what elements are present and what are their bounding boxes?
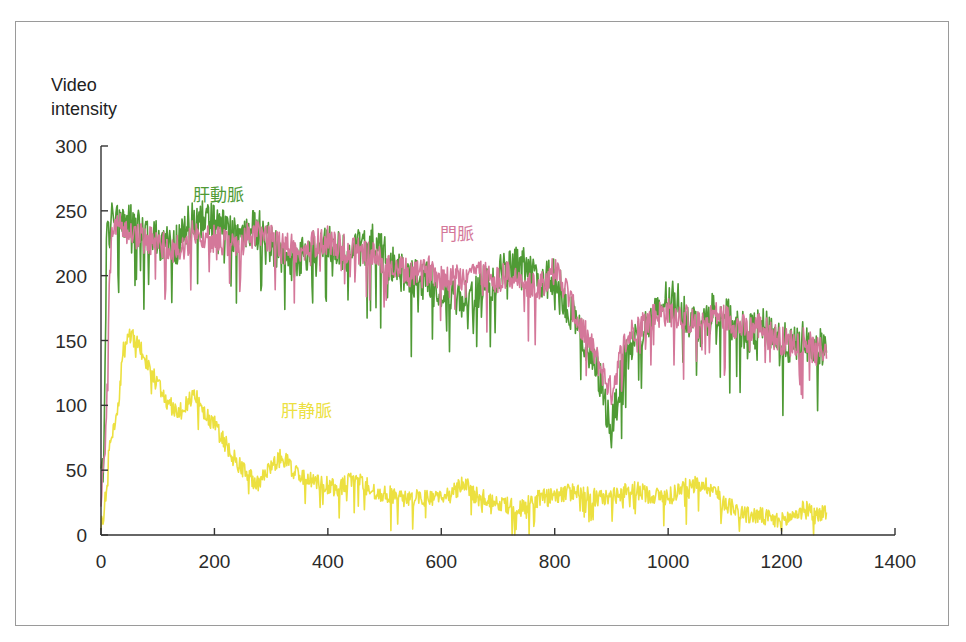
y-tick-label: 250 [55, 201, 87, 222]
x-tick-label: 800 [539, 551, 571, 572]
series-label-hepatic-vein: 肝静脈 [281, 397, 332, 422]
x-tick-label: 1200 [760, 551, 802, 572]
x-tick-label: 1000 [647, 551, 689, 572]
series-label-portal-vein: 門脈 [440, 220, 474, 245]
x-tick-label: 600 [425, 551, 457, 572]
y-tick-label: 0 [76, 525, 87, 546]
y-tick-label: 50 [66, 460, 87, 481]
y-tick-label: 150 [55, 331, 87, 352]
y-tick-label: 100 [55, 395, 87, 416]
x-tick-label: 400 [312, 551, 344, 572]
y-tick-label: 200 [55, 266, 87, 287]
axes: 0501001502002503000200400600800100012001… [55, 136, 916, 572]
x-tick-label: 0 [96, 551, 107, 572]
series-layer [101, 201, 827, 535]
plot-area: 0501001502002503000200400600800100012001… [0, 0, 966, 642]
series-line [101, 214, 827, 507]
series-line [101, 329, 827, 535]
x-tick-label: 1400 [874, 551, 916, 572]
y-tick-label: 300 [55, 136, 87, 157]
x-tick-label: 200 [199, 551, 231, 572]
series-label-hepatic-artery: 肝動脈 [193, 181, 244, 206]
